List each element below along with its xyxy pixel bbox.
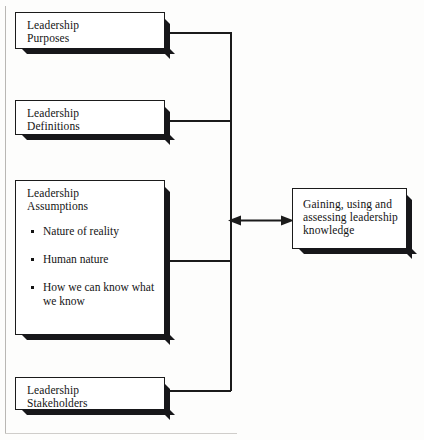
diagram-canvas: Leadership Purposes Leadership Definitio…	[0, 0, 424, 440]
node-leadership-knowledge[interactable]: Gaining, using and assessing leadership …	[292, 188, 407, 249]
node-label-line: Leadership	[27, 187, 158, 200]
assumptions-bullet-list: Nature of reality Human nature How we ca…	[30, 225, 156, 323]
node-label: Leadership Assumptions	[27, 187, 158, 213]
node-label-line: assessing leadership	[303, 211, 400, 224]
box-shadow-bottom	[21, 48, 175, 54]
node-label: Gaining, using and assessing leadership …	[303, 198, 400, 238]
box-shadow-bottom	[21, 134, 175, 140]
list-item-line: How we can know what	[43, 281, 156, 294]
node-leadership-stakeholders[interactable]: Leadership Stakeholders	[15, 377, 165, 410]
list-item-line: we know	[43, 295, 156, 308]
node-label: Leadership Definitions	[27, 107, 158, 133]
box-shadow-bottom	[298, 248, 417, 254]
node-leadership-purposes[interactable]: Leadership Purposes	[15, 12, 165, 49]
page-edge-line-bottom	[5, 433, 237, 434]
node-label-line: Leadership	[27, 384, 158, 397]
box-shadow-bottom	[21, 334, 175, 340]
node-label-line: Assumptions	[27, 200, 158, 213]
list-item: Human nature	[30, 253, 156, 266]
connector-assumptions-to-bus	[165, 260, 231, 262]
box-shadow-right	[164, 186, 170, 345]
list-item: How we can know what we know	[30, 281, 156, 307]
node-label-line: Stakeholders	[27, 397, 158, 410]
node-label-line: Gaining, using and	[303, 198, 400, 211]
node-label-line: Purposes	[27, 32, 158, 45]
node-label-line: Definitions	[27, 120, 158, 133]
connector-purposes-to-bus	[165, 32, 231, 34]
node-leadership-assumptions[interactable]: Leadership Assumptions Nature of reality…	[15, 180, 165, 335]
connector-definitions-to-bus	[165, 120, 231, 122]
bidirectional-arrow-icon	[228, 212, 294, 229]
list-item-line: Human nature	[43, 253, 156, 266]
node-label-line: Leadership	[27, 19, 158, 32]
list-item: Nature of reality	[30, 225, 156, 238]
node-leadership-definitions[interactable]: Leadership Definitions	[15, 100, 165, 135]
node-label: Leadership Stakeholders	[27, 384, 158, 410]
connector-stakeholders-to-bus	[165, 390, 231, 392]
page-edge-line	[5, 6, 6, 434]
node-label: Leadership Purposes	[27, 19, 158, 45]
node-label-line: Leadership	[27, 107, 158, 120]
list-item-line: Nature of reality	[43, 225, 156, 238]
node-label-line: knowledge	[303, 224, 400, 237]
